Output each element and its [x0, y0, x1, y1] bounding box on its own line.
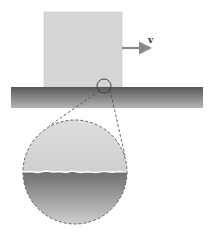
block	[44, 12, 122, 87]
magnified-view	[20, 118, 130, 227]
surface-slab	[11, 87, 203, 108]
friction-contact-diagram: v	[0, 0, 213, 232]
velocity-label: v	[147, 35, 154, 45]
